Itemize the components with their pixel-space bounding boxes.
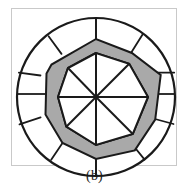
figure-container: (b) xyxy=(0,0,189,192)
figure-caption: (b) xyxy=(0,168,189,184)
circular-sector-diagram xyxy=(0,0,189,192)
